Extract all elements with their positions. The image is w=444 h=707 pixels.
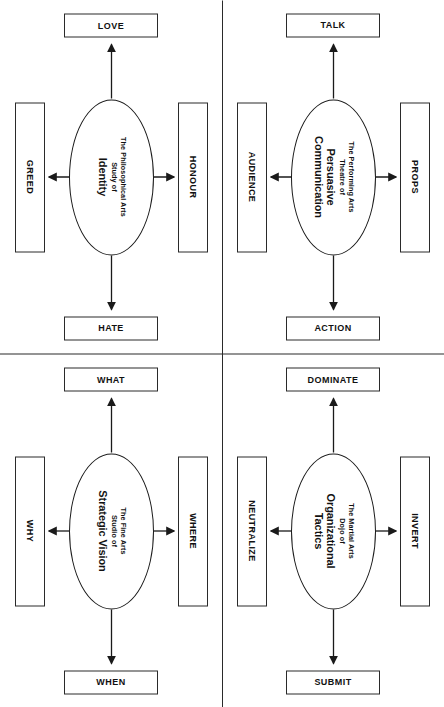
node-left[interactable]: DOMINATE xyxy=(287,367,381,391)
node-left-label: LOVE xyxy=(98,20,124,30)
node-right-label: ACTION xyxy=(315,323,352,333)
hub-ellipse[interactable]: The Martial Arts Dojo of Organizational … xyxy=(291,453,376,609)
node-left-label: TALK xyxy=(321,20,346,30)
node-bottom[interactable]: GREED xyxy=(15,102,45,252)
node-top[interactable]: HONOUR xyxy=(178,102,208,252)
node-left[interactable]: WHAT xyxy=(65,367,159,391)
diagram-page: PROPS TALK ACTION AUDIENCE The Performin… xyxy=(0,0,444,707)
hub-prefix: The Philosophical Arts Study of xyxy=(110,137,127,217)
hub-ellipse[interactable]: The Fine Arts Studio of Strategic Vision xyxy=(69,453,154,609)
node-top-label: INVERT xyxy=(410,513,420,549)
hub-title: Persuasive Communication xyxy=(312,136,336,218)
node-right[interactable]: SUBMIT xyxy=(287,670,381,694)
quadrant-stage: PROPS TALK ACTION AUDIENCE The Performin… xyxy=(223,0,444,353)
quadrant-stage: INVERT DOMINATE SUBMIT NEUTRALIZE The Ma… xyxy=(223,354,444,707)
node-right-label: HATE xyxy=(99,323,125,333)
node-bottom-label: NEUTRALIZE xyxy=(247,500,257,562)
node-bottom[interactable]: WHY xyxy=(15,456,45,606)
node-bottom-label: WHY xyxy=(25,519,35,541)
hub-prefix: The Performing Arts Theatre of xyxy=(338,141,355,212)
node-top[interactable]: WHERE xyxy=(178,456,208,606)
quadrant-stage: HONOUR LOVE HATE GREED The Philosophical… xyxy=(1,0,222,353)
node-top[interactable]: PROPS xyxy=(400,102,430,252)
node-top[interactable]: INVERT xyxy=(400,456,430,606)
hub-title: Identity xyxy=(96,157,108,195)
node-top-label: HONOUR xyxy=(188,155,198,198)
node-left[interactable]: LOVE xyxy=(65,13,159,37)
quadrant-fine-arts: WHERE WHAT WHEN WHY The Fine Arts Studio… xyxy=(1,354,222,707)
quadrant-stage: WHERE WHAT WHEN WHY The Fine Arts Studio… xyxy=(1,354,222,707)
node-right[interactable]: ACTION xyxy=(287,316,381,340)
node-bottom[interactable]: AUDIENCE xyxy=(237,102,267,252)
quadrant-philosophical-arts: HONOUR LOVE HATE GREED The Philosophical… xyxy=(1,0,222,353)
node-left-label: DOMINATE xyxy=(308,374,359,384)
hub-title: Strategic Vision xyxy=(96,490,108,571)
hub-title: Organizational Tactics xyxy=(312,493,336,568)
node-right-label: WHEN xyxy=(97,677,126,687)
node-bottom-label: GREED xyxy=(25,159,35,193)
node-right-label: SUBMIT xyxy=(315,677,352,687)
quadrant-martial-arts: INVERT DOMINATE SUBMIT NEUTRALIZE The Ma… xyxy=(223,354,444,707)
node-right[interactable]: HATE xyxy=(65,316,159,340)
node-top-label: PROPS xyxy=(410,160,420,194)
quadrant-performing-arts: PROPS TALK ACTION AUDIENCE The Performin… xyxy=(223,0,444,353)
hub-ellipse[interactable]: The Philosophical Arts Study of Identity xyxy=(69,99,154,255)
hub-prefix: The Fine Arts Studio of xyxy=(110,507,127,554)
node-left-label: WHAT xyxy=(97,374,125,384)
hub-prefix: The Martial Arts Dojo of xyxy=(338,503,355,559)
node-bottom[interactable]: NEUTRALIZE xyxy=(237,456,267,606)
node-right[interactable]: WHEN xyxy=(65,670,159,694)
node-top-label: WHERE xyxy=(188,513,198,549)
node-bottom-label: AUDIENCE xyxy=(247,151,257,202)
hub-ellipse[interactable]: The Performing Arts Theatre of Persuasiv… xyxy=(291,99,376,255)
node-left[interactable]: TALK xyxy=(287,13,381,37)
